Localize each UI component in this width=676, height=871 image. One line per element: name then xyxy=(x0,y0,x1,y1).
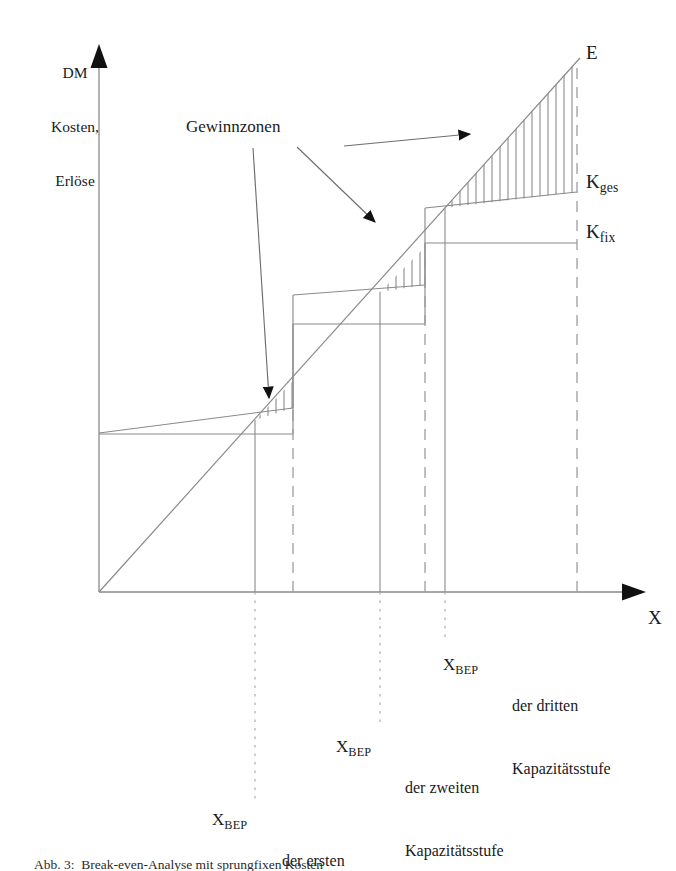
y-axis-label-line2: Kosten, xyxy=(30,118,120,136)
x-axis-arrowhead xyxy=(622,584,646,601)
k-fix-base: K xyxy=(586,221,600,242)
y-axis-label-line3: Erlöse xyxy=(30,172,120,190)
bep-2-subscript: BEP xyxy=(348,745,371,759)
bep-3-base: X xyxy=(443,655,455,674)
k-ges-segment-1 xyxy=(99,408,293,433)
profit-zone-1-hatch xyxy=(255,381,293,420)
bep-1-label: XBEP xyxy=(212,810,247,833)
fixed-cost-curve xyxy=(99,243,577,434)
k-fix-subscript: fix xyxy=(600,230,616,245)
bep-2-desc-line2: Kapazitätsstufe xyxy=(405,840,504,861)
gewinnzonen-arrows-group xyxy=(253,134,470,398)
bep-2-desc-line1: der zweiten xyxy=(405,777,504,798)
bep-2-description: der zweiten Kapazitätsstufe xyxy=(405,735,504,871)
gewinnzonen-annotation: Gewinnzonen xyxy=(186,117,280,137)
bep-1-base: X xyxy=(212,810,224,829)
y-axis-label: DM Kosten, Erlöse xyxy=(30,28,120,226)
revenue-line xyxy=(99,58,580,592)
bep-3-subscript: BEP xyxy=(455,663,478,677)
k-ges-segment-2 xyxy=(293,285,425,295)
revenue-curve-label: E xyxy=(586,42,598,64)
bep-3-description: der dritten Kapazitätsstufe xyxy=(512,653,611,821)
figure-caption: Abb. 3: Break-even-Analyse mit sprungfix… xyxy=(34,857,323,871)
bep-2-label: XBEP xyxy=(336,737,371,760)
bep-3-desc-line1: der dritten xyxy=(512,695,611,716)
total-cost-curve xyxy=(99,192,577,433)
gewinnzonen-arrow-zone2 xyxy=(297,147,375,222)
y-axis-label-line1: DM xyxy=(30,64,120,82)
gewinnzonen-arrow-zone3 xyxy=(344,134,470,146)
bep-2-base: X xyxy=(336,737,348,756)
bep-1-subscript: BEP xyxy=(224,818,247,832)
gewinnzonen-arrow-zone1 xyxy=(253,148,269,398)
k-ges-base: K xyxy=(586,171,600,192)
break-even-diagram: DM Kosten, Erlöse X E Kges Kfix Gewinnzo… xyxy=(0,0,676,871)
fixed-cost-curve-label: Kfix xyxy=(586,221,616,246)
total-cost-curve-label: Kges xyxy=(586,171,619,196)
bep-3-desc-line2: Kapazitätsstufe xyxy=(512,758,611,779)
k-ges-subscript: ges xyxy=(600,180,619,195)
x-axis-label: X xyxy=(648,607,662,629)
bep-3-label: XBEP xyxy=(443,655,478,678)
